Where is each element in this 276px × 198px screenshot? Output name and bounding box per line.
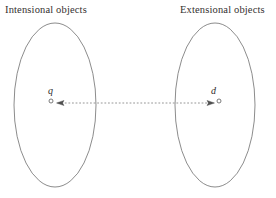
extensional-objects-heading: Extensional objects (180, 4, 265, 16)
extensional-objects-ellipse (175, 23, 255, 187)
node-label-q: q (48, 86, 53, 96)
node-label-d: d (211, 86, 216, 96)
node-marker-q-icon (49, 99, 53, 103)
node-marker-d-icon (217, 99, 221, 103)
intensional-objects-heading: Intensional objects (5, 4, 87, 16)
arrowhead-right-icon (207, 100, 215, 105)
intensional-objects-ellipse (14, 23, 96, 187)
diagram-graphics (0, 0, 276, 198)
diagram-canvas: Intensional objects Extensional objects … (0, 0, 276, 198)
